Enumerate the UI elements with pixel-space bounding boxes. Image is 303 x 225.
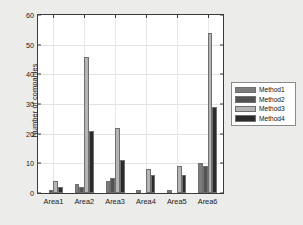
y-axis-tick-label: 10: [26, 159, 34, 168]
y-axis-tick-label: 30: [26, 100, 34, 109]
y-axis-tick-label: 0: [30, 189, 34, 198]
legend-item-method1[interactable]: Method1: [234, 85, 293, 95]
y-axis-tick-label: 50: [26, 40, 34, 49]
bar-method4-area6: [212, 107, 217, 193]
chart-figure: Number of companies 0102030405060 Area1A…: [0, 0, 303, 225]
chart-legend: Method1Method2Method3Method4: [231, 82, 296, 126]
legend-item-method3[interactable]: Method3: [234, 104, 293, 114]
y-axis-tick-mark: [220, 133, 223, 134]
bar-method4-area4: [151, 175, 156, 193]
legend-item-method4[interactable]: Method4: [234, 114, 293, 124]
legend-swatch-icon: [235, 106, 256, 113]
bar-method4-area2: [89, 131, 94, 193]
bar-method1-area4: [136, 190, 141, 193]
y-axis-tick-mark: [220, 44, 223, 45]
gridline-horizontal: [38, 74, 223, 75]
y-axis-tick-label: 40: [26, 70, 34, 79]
x-axis-tick-mark: [177, 15, 178, 18]
x-axis-tick-label: Area2: [74, 197, 94, 206]
gridline-vertical: [53, 15, 54, 193]
legend-item-label: Method2: [259, 96, 285, 103]
legend-item-method2[interactable]: Method2: [234, 95, 293, 105]
x-axis-tick-label: Area5: [167, 197, 187, 206]
x-axis-tick-mark: [84, 15, 85, 18]
y-axis-tick-mark: [38, 15, 41, 16]
gridline-horizontal: [38, 163, 223, 164]
legend-swatch-icon: [235, 115, 256, 122]
y-axis-tick-label: 60: [26, 11, 34, 20]
gridline-horizontal: [38, 104, 223, 105]
plot-area: 0102030405060 Area1Area2Area3Area4Area5A…: [37, 14, 224, 194]
y-axis-tick-mark: [220, 193, 223, 194]
y-axis-tick-mark: [220, 15, 223, 16]
y-axis-tick-mark: [38, 44, 41, 45]
y-axis-tick-mark: [220, 163, 223, 164]
x-axis-tick-label: Area3: [105, 197, 125, 206]
legend-item-label: Method1: [259, 86, 285, 93]
bar-method4-area3: [120, 160, 125, 193]
legend-item-label: Method3: [259, 105, 285, 112]
y-axis-tick-mark: [38, 104, 41, 105]
x-axis-tick-mark: [146, 15, 147, 18]
gridline-horizontal: [38, 45, 223, 46]
x-axis-tick-label: Area6: [198, 197, 218, 206]
legend-swatch-icon: [235, 87, 256, 94]
y-axis-tick-label: 20: [26, 129, 34, 138]
bar-method4-area1: [58, 187, 63, 193]
legend-swatch-icon: [235, 96, 256, 103]
x-axis-tick-mark: [208, 15, 209, 18]
y-axis-tick-mark: [38, 74, 41, 75]
legend-item-label: Method4: [259, 115, 285, 122]
x-axis-tick-label: Area1: [44, 197, 64, 206]
gridline-horizontal: [38, 134, 223, 135]
y-axis-tick-mark: [220, 104, 223, 105]
y-axis-tick-mark: [38, 163, 41, 164]
y-axis-tick-mark: [220, 74, 223, 75]
y-axis-tick-mark: [38, 193, 41, 194]
gridline-vertical: [146, 15, 147, 193]
x-axis-tick-label: Area4: [136, 197, 156, 206]
x-axis-tick-mark: [53, 15, 54, 18]
y-axis-tick-mark: [38, 133, 41, 134]
bar-method4-area5: [182, 175, 187, 193]
bar-method1-area5: [167, 190, 172, 193]
x-axis-tick-mark: [115, 15, 116, 18]
